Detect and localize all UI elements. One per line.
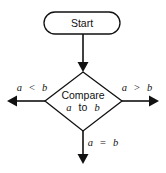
label-op: =: [100, 137, 106, 148]
var-b: b: [94, 102, 99, 113]
arrowhead-left-icon: [7, 96, 17, 107]
edge-label-greater: a > b: [122, 77, 152, 94]
arrowhead-down-icon: [78, 154, 89, 164]
flowchart-diagram: Start Compare a to b a < b a > b: [0, 0, 166, 173]
label-rhs: b: [113, 137, 118, 148]
label-lhs: a: [88, 137, 93, 148]
label-rhs: b: [42, 82, 47, 93]
compare-label-line1: Compare: [61, 89, 104, 101]
start-node: Start: [44, 12, 120, 34]
edge-label-equal: a = b: [88, 132, 118, 149]
label-op: >: [134, 82, 140, 93]
edge-greater-than: a > b: [122, 77, 159, 107]
compare-node: Compare a to b: [45, 72, 122, 131]
edge-start-to-compare: [78, 34, 89, 72]
arrowhead-right-icon: [149, 96, 159, 107]
start-label: Start: [71, 17, 93, 29]
arrowhead-down-icon: [78, 62, 89, 72]
label-lhs: a: [17, 82, 22, 93]
edge-less-than: a < b: [7, 77, 47, 107]
label-lhs: a: [122, 82, 127, 93]
edge-label-less: a < b: [17, 77, 47, 94]
edge-equal: a = b: [78, 131, 119, 164]
var-a: a: [66, 102, 71, 113]
word-to: to: [79, 101, 88, 113]
label-op: <: [29, 82, 35, 93]
label-rhs: b: [147, 82, 152, 93]
